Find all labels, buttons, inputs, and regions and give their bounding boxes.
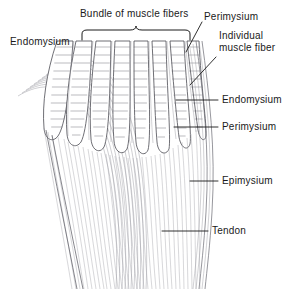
muscle-fiber <box>152 41 170 153</box>
muscle-anatomy-diagram: Bundle of muscle fibers Endomysium Perim… <box>0 0 295 289</box>
muscle-fiber <box>90 41 111 151</box>
label-perimysium-top: Perimysium <box>204 11 258 23</box>
tendon-edge <box>46 130 83 289</box>
muscle-belly-group <box>18 41 213 289</box>
label-epimysium: Epimysium <box>222 175 273 187</box>
label-perimysium-right: Perimysium <box>222 121 276 133</box>
label-tendon: Tendon <box>212 225 246 237</box>
muscle-fiber-fan <box>44 41 207 154</box>
label-endomysium-left: Endomysium <box>10 36 70 48</box>
label-individual-muscle-fiber: Individual muscle fiber <box>219 30 293 53</box>
muscle-fiber <box>134 41 150 154</box>
muscle-fiber <box>113 41 130 153</box>
muscle-fiber <box>170 41 190 148</box>
label-individual-muscle-fiber-line1: Individual <box>219 30 263 41</box>
label-individual-muscle-fiber-line2: muscle fiber <box>219 42 275 53</box>
bundle-bracket <box>82 26 190 40</box>
label-endomysium-right: Endomysium <box>222 94 282 106</box>
label-bundle-of-muscle-fibers: Bundle of muscle fibers <box>80 8 189 20</box>
